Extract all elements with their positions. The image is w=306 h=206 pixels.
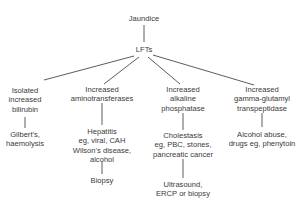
node-label: transpeptidase [234, 104, 290, 113]
node-label: Increased [161, 85, 205, 94]
node-label: LFTs [136, 45, 152, 54]
node-label: Increased [71, 85, 133, 94]
node-label: Alcohol abuse, [229, 130, 296, 139]
node-alkaline-phosphatase: Increased alkaline phosphatase [161, 85, 205, 113]
node-label: eg, PBC, stones, [153, 140, 213, 149]
node-label: haemolysis [6, 139, 44, 148]
node-hepatitis: Hepatitis eg, viral, CAH Wilson's diseas… [73, 127, 131, 165]
node-label: Increased [234, 85, 290, 94]
node-lfts: LFTs [136, 45, 152, 54]
node-label: aminotransferases [71, 94, 133, 103]
node-label: increased [9, 95, 42, 104]
node-ultrasound-ercp: Ultrasound, ERCP or biopsy [156, 180, 210, 199]
node-label: drugs eg, phenytoin [229, 139, 296, 148]
node-label: Gilbert's, [6, 130, 44, 139]
node-alcohol-drugs: Alcohol abuse, drugs eg, phenytoin [229, 130, 296, 149]
node-label: Cholestasis [153, 131, 213, 140]
node-jaundice: Jaundice [129, 14, 159, 23]
node-ggt: Increased gamma-glutamyl transpeptidase [234, 85, 290, 113]
node-label: Hepatitis [73, 127, 131, 136]
node-biopsy: Biopsy [91, 176, 114, 185]
edge-lfts-ggt [153, 55, 254, 85]
node-label: gamma-glutamyl [234, 94, 290, 103]
node-label: alcohol [73, 155, 131, 164]
node-cholestasis: Cholestasis eg, PBC, stones, pancreatic … [153, 131, 213, 159]
node-gilberts-haemolysis: Gilbert's, haemolysis [6, 130, 44, 149]
edge-lfts-aminotransferases [104, 57, 139, 84]
node-label: ERCP or biopsy [156, 189, 210, 198]
node-label: alkaline [161, 94, 205, 103]
node-label: Biopsy [91, 176, 114, 185]
node-label: eg, viral, CAH [73, 136, 131, 145]
node-label: pancreatic cancer [153, 150, 213, 159]
edge-lfts-bilirubin [44, 56, 134, 80]
node-label: bilirubin [9, 105, 42, 114]
node-aminotransferases: Increased aminotransferases [71, 85, 133, 104]
node-label: Isolated [9, 86, 42, 95]
node-label: Ultrasound, [156, 180, 210, 189]
node-isolated-bilirubin: Isolated increased bilirubin [9, 86, 42, 114]
node-label: phosphatase [161, 104, 205, 113]
edge-lfts-alkaline-phosphatase [148, 57, 180, 84]
node-label: Wilson's disease, [73, 146, 131, 155]
node-label: Jaundice [129, 14, 159, 23]
